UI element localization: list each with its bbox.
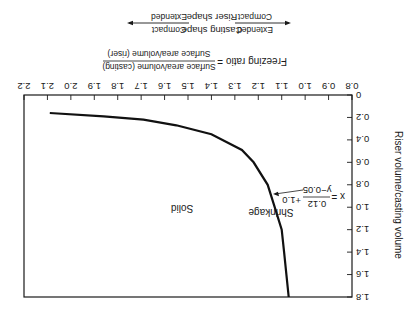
x-tick-label: 1.3 — [228, 81, 241, 92]
left-bottom-label: Compact — [237, 12, 272, 22]
equation-denominator: y−0.05 — [303, 185, 332, 196]
x-tick-label: 2.1 — [41, 81, 54, 92]
y-tick-label: 0.2 — [356, 112, 369, 123]
y-tick-label: 0 — [356, 90, 361, 101]
y-tick-label: 0.6 — [356, 157, 369, 168]
x-tick-label: 1.6 — [158, 81, 171, 92]
riser-curve — [50, 113, 289, 297]
arrow-left-icon — [285, 21, 291, 25]
y-tick-label: 1.2 — [356, 224, 369, 235]
shrinkage-label: Shrinkage — [248, 207, 293, 218]
left-top-label: Extended — [237, 25, 273, 35]
x-tick-label: 2.0 — [64, 81, 77, 92]
y-axis-ticks: 00.20.40.60.81.01.21.41.61.8 — [347, 90, 369, 303]
shape-direction-legend: Casting shape Riser shape Extended Compa… — [127, 12, 291, 36]
equation-lhs: x = — [331, 191, 345, 202]
fraction-denominator: Surface area/volume (riser) — [107, 49, 210, 59]
plot-frame — [24, 95, 352, 297]
chart-svg: 0.80.91.01.11.21.31.41.51.61.71.81.92.02… — [0, 0, 407, 315]
x-tick-label: 1.5 — [181, 81, 194, 92]
y-tick-label: 1.8 — [356, 292, 369, 303]
equation-numerator: 0.12 — [308, 199, 327, 210]
y-tick-label: 1.4 — [356, 247, 369, 258]
arrow-right-icon — [127, 21, 133, 25]
equation-constant: +1.0 — [282, 195, 301, 206]
arrowhead-icon — [273, 192, 279, 196]
right-top-label: Compact — [151, 25, 186, 35]
y-tick-label: 1.6 — [356, 269, 369, 280]
y-tick-label: 0.4 — [356, 134, 369, 145]
x-tick-label: 1.8 — [111, 81, 124, 92]
x-tick-label: 1.7 — [135, 81, 148, 92]
fraction-numerator: Surface area/volume (casting) — [102, 62, 216, 72]
solid-label: Solid — [171, 203, 193, 214]
y-tick-label: 1.0 — [356, 202, 369, 213]
freezing-ratio-definition: Freezing ratio = Surface area/volume (ca… — [102, 49, 287, 72]
x-tick-label: 1.9 — [88, 81, 101, 92]
x-axis-ticks: 0.80.91.01.11.21.31.41.51.61.71.81.92.02… — [17, 81, 358, 100]
rotated-figure: 0.80.91.01.11.21.31.41.51.61.71.81.92.02… — [0, 0, 407, 315]
riser-shape-label: Riser shape — [187, 12, 238, 23]
x-tick-label: 1.0 — [299, 81, 312, 92]
x-tick-label: 1.1 — [275, 81, 288, 92]
y-axis-label: Riser volume/casting volume — [393, 131, 404, 259]
right-bottom-label: Extended — [151, 12, 187, 22]
x-tick-label: 0.9 — [322, 81, 335, 92]
x-tick-label: 1.2 — [252, 81, 265, 92]
casting-shape-label: Casting shape — [182, 25, 243, 36]
freezing-ratio-label: Freezing ratio = — [217, 56, 287, 67]
y-tick-label: 0.8 — [356, 179, 369, 190]
x-tick-label: 1.4 — [205, 81, 218, 92]
x-tick-label: 2.2 — [17, 81, 30, 92]
equation-arrow — [275, 190, 303, 194]
